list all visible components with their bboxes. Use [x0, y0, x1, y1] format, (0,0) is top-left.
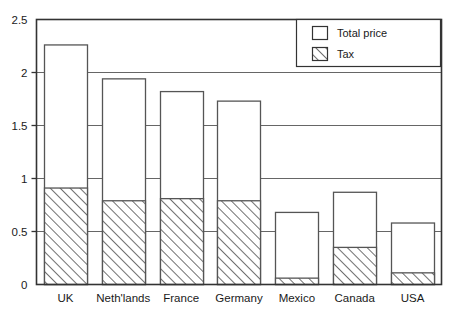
- bar-tax: [392, 273, 435, 285]
- y-tick-label: 2: [21, 67, 27, 79]
- chart-canvas: 00.511.522.5 UKNeth'landsFranceGermanyMe…: [0, 0, 450, 313]
- x-category-label: UK: [57, 292, 73, 304]
- bar-tax: [218, 201, 261, 285]
- x-category-label: USA: [401, 292, 425, 304]
- bar-tax: [103, 201, 146, 285]
- y-tick-label: 1: [21, 173, 27, 185]
- x-category-label: Canada: [335, 292, 376, 304]
- bar-tax: [276, 278, 319, 284]
- bar-group: [218, 101, 261, 284]
- y-tick-label: 0: [21, 279, 27, 291]
- legend-swatch-tax: [313, 48, 328, 61]
- bar-group: [103, 79, 146, 285]
- legend-label-tax: Tax: [337, 48, 355, 60]
- y-tick-label: 1.5: [12, 120, 28, 132]
- y-tick-label: 0.5: [12, 226, 28, 238]
- bar-tax: [161, 199, 204, 285]
- bar-chart-figure: 00.511.522.5 UKNeth'landsFranceGermanyMe…: [0, 0, 450, 313]
- chart-legend: Total price Tax: [297, 20, 441, 67]
- x-category-label: Germany: [215, 292, 263, 304]
- legend-item-total-price: Total price: [313, 27, 388, 40]
- legend-swatch-total-price: [313, 27, 328, 40]
- bar-total-price: [276, 212, 319, 284]
- x-category-label: France: [163, 292, 199, 304]
- x-axis-category-labels: UKNeth'landsFranceGermanyMexicoCanadaUSA: [57, 292, 424, 304]
- bar-group: [392, 223, 435, 284]
- x-category-label: Mexico: [279, 292, 315, 304]
- bar-tax: [45, 188, 88, 284]
- y-tick-label: 2.5: [12, 14, 28, 26]
- bar-group: [161, 92, 204, 285]
- bar-tax: [334, 247, 377, 284]
- x-category-label: Neth'lands: [96, 292, 150, 304]
- bar-group: [276, 212, 319, 284]
- bar-group: [45, 45, 88, 285]
- bar-group: [334, 192, 377, 284]
- legend-label-total-price: Total price: [337, 27, 387, 39]
